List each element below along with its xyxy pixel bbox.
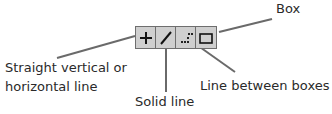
line-between-boxes-button[interactable] [176,27,196,48]
box-label: Box [276,0,300,18]
drawing-toolbar [135,26,217,49]
solid-line-label: Solid line [135,93,194,111]
diagonal-line-icon [158,30,174,46]
line-between-boxes-label: Line between boxes [200,77,329,95]
plus-icon [138,30,154,46]
straight-line-label-2: horizontal line [5,78,97,96]
straight-line-label-1: Straight vertical or [5,59,127,77]
dotted-connector-icon [178,30,194,46]
box-button[interactable] [196,27,216,48]
solid-line-button[interactable] [156,27,176,48]
straight-line-button[interactable] [136,27,156,48]
rectangle-icon [198,30,214,46]
